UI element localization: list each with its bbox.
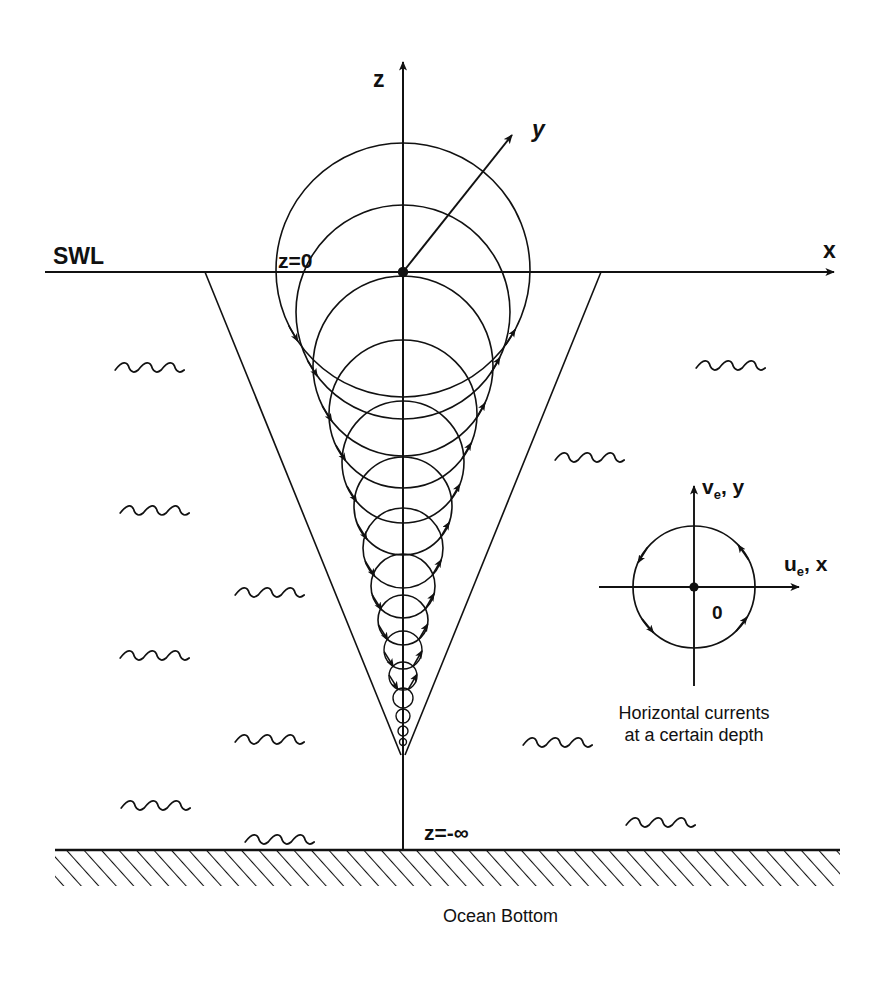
wave-mark-icon: [523, 738, 592, 747]
ve-sub: e: [714, 487, 721, 502]
figure-canvas: SWL z=0 z y x z=-∞ Ocean Bottom 0 ve, y …: [0, 0, 885, 984]
inset-flow-arrowhead: [638, 547, 648, 562]
wave-mark-icon: [696, 361, 765, 370]
inset-flow-arrowhead: [736, 617, 747, 631]
wave-mark-icon: [120, 651, 189, 660]
inset-caption-line-2: at a certain depth: [624, 725, 763, 745]
ve-label: v: [702, 475, 714, 498]
circle-flow-arrowhead: [365, 561, 375, 576]
wave-mark-icon: [115, 363, 184, 372]
wave-mark-icon: [235, 588, 304, 597]
y-axis-label: y: [531, 116, 546, 142]
inset-origin-point: [689, 582, 698, 591]
wave-mark-icon: [120, 506, 189, 515]
inset-vertical-axis-label: ve, y: [702, 475, 745, 502]
x-axis-label: x: [823, 237, 836, 263]
circle-flow-arrowhead: [372, 595, 381, 610]
inset-flow-arrowhead: [738, 545, 748, 560]
circle-flow-arrowhead: [440, 522, 449, 538]
ekman-spiral-svg: SWL z=0 z y x z=-∞ Ocean Bottom 0 ve, y …: [0, 0, 885, 984]
wave-mark-icon: [121, 801, 190, 810]
z-zero-label: z=0: [278, 249, 312, 272]
wave-mark-icon: [235, 735, 304, 744]
circle-flow-arrowhead: [451, 484, 460, 500]
inset-horizontal-axis-label: ue, x: [784, 552, 828, 579]
circle-flow-arrowhead: [432, 560, 441, 575]
circle-flow-arrowhead: [322, 406, 332, 421]
ocean-bottom-label: Ocean Bottom: [443, 906, 558, 926]
wave-mark-icon: [245, 835, 314, 844]
circle-flow-arrowhead: [357, 524, 367, 539]
ue-label: u: [784, 552, 797, 575]
wave-mark-icon: [555, 453, 624, 462]
svg-text:ue, x: ue, x: [784, 552, 828, 579]
ue-sub: e: [797, 564, 804, 579]
ve-tail: , y: [721, 475, 745, 498]
inset-origin-label: 0: [712, 602, 723, 623]
seabed-hatching: [55, 850, 840, 886]
z-axis-label: z: [373, 66, 385, 92]
inset-caption-line-1: Horizontal currents: [618, 703, 769, 723]
diagram-geometry: [45, 62, 840, 886]
ue-tail: , x: [804, 552, 828, 575]
swl-label: SWL: [53, 243, 104, 269]
inset-flow-arrowhead: [642, 619, 654, 633]
wave-mark-icon: [626, 818, 695, 827]
svg-text:ve, y: ve, y: [702, 475, 745, 502]
z-minus-infinity-label: z=-∞: [424, 821, 469, 844]
circle-flow-arrowhead: [425, 594, 434, 609]
circle-flow-arrowhead: [379, 625, 388, 640]
circle-flow-arrowhead: [419, 624, 428, 639]
